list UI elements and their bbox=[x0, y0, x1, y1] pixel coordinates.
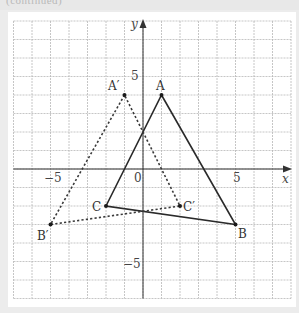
label-a-prime: A′ bbox=[107, 79, 120, 93]
y-axis-label: y bbox=[130, 17, 138, 31]
label-a: A bbox=[155, 79, 165, 93]
point-a-prime bbox=[123, 93, 127, 97]
y-axis-arrow-icon bbox=[140, 19, 147, 28]
triangle-abc bbox=[106, 95, 236, 225]
label-c: C bbox=[92, 200, 101, 214]
label-c-prime: C′ bbox=[183, 200, 195, 214]
triangle-a-prime-b-prime-c-prime bbox=[51, 95, 181, 225]
x-tick-label-neg5: −5 bbox=[44, 171, 62, 185]
y-tick-label-5: 5 bbox=[131, 69, 139, 83]
y-tick-label-neg5: −5 bbox=[123, 257, 141, 271]
point-c-prime bbox=[178, 204, 182, 208]
point-a bbox=[160, 93, 164, 97]
point-b bbox=[234, 223, 238, 227]
label-b-prime: B′ bbox=[37, 229, 49, 243]
point-b-prime bbox=[49, 223, 53, 227]
point-c bbox=[104, 204, 108, 208]
x-tick-label-5: 5 bbox=[233, 171, 241, 185]
x-axis-label: x bbox=[282, 172, 289, 186]
label-b: B bbox=[238, 227, 247, 241]
coordinate-graph: x y 0 −5 5 5 −5 A B C A′ B′ C′ bbox=[0, 0, 299, 313]
grid bbox=[14, 21, 292, 299]
origin-label: 0 bbox=[134, 171, 142, 185]
